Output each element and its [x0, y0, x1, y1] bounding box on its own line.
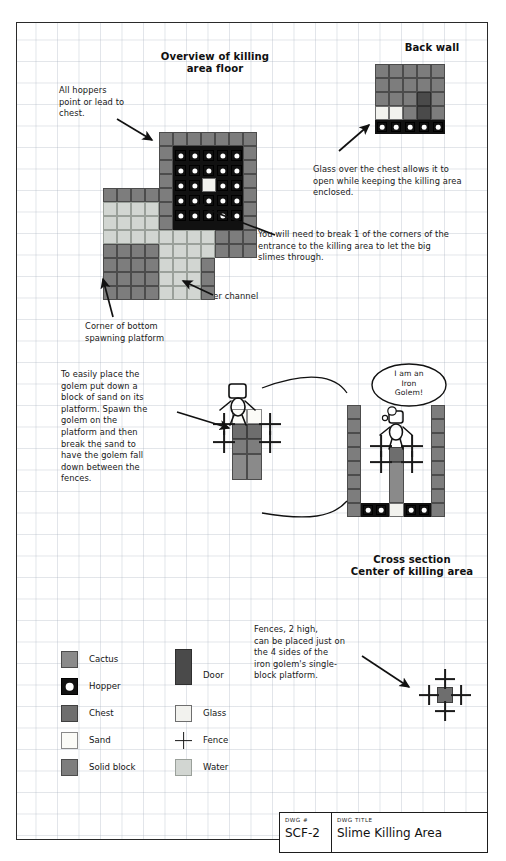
door-swatch-icon [175, 649, 192, 685]
dwg-number-value: SCF-2 [285, 826, 320, 840]
cactus-swatch-icon [61, 651, 78, 668]
solid-block-swatch-icon [61, 759, 78, 776]
drawing-sheet: Overview of killing area floor Back wall… [16, 22, 488, 840]
dwg-number-caption: DWG # [285, 817, 308, 823]
chest-swatch-icon [61, 705, 78, 722]
title-block-number-cell: DWG # SCF-2 [280, 813, 332, 852]
title-block: DWG # SCF-2 DWG TITLE Slime Killing Area [279, 812, 488, 853]
legend-label-chest: Chest [89, 708, 114, 718]
title-block-title-cell: DWG TITLE Slime Killing Area [332, 813, 487, 852]
dwg-title-value: Slime Killing Area [337, 826, 442, 840]
legend-label-fence: Fence [203, 735, 228, 745]
glass-swatch-icon [175, 705, 192, 722]
annotation-leaders [17, 23, 489, 841]
legend-label-hopper: Hopper [89, 681, 120, 691]
dwg-title-caption: DWG TITLE [337, 817, 373, 823]
legend-label-door: Door [203, 670, 224, 680]
hopper-swatch-icon [61, 678, 78, 695]
fence-swatch-icon [175, 732, 192, 749]
legend-label-cactus: Cactus [89, 654, 118, 664]
legend-label-solid-block: Solid block [89, 762, 135, 772]
legend-label-water: Water [203, 762, 228, 772]
water-swatch-icon [175, 759, 192, 776]
sand-swatch-icon [61, 732, 78, 749]
legend-label-glass: Glass [203, 708, 226, 718]
legend-label-sand: Sand [89, 735, 111, 745]
